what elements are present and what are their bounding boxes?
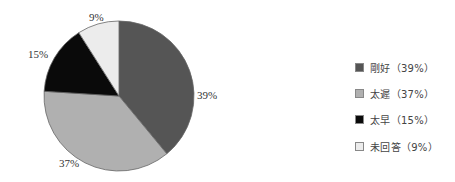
data-label-no-answer: 9% <box>89 11 104 23</box>
legend-label: 太遲（37%） <box>370 86 434 101</box>
legend-item-just-right: 剛好（39%） <box>355 62 438 73</box>
legend-swatch <box>355 115 364 124</box>
data-label-just-right: 39% <box>197 89 217 101</box>
data-label-too-late: 37% <box>59 157 79 169</box>
legend-item-too-early: 太早（15%） <box>355 114 438 125</box>
legend-label: 太早（15%） <box>370 112 434 127</box>
legend-item-no-answer: 未回答（9%） <box>355 141 438 152</box>
legend-swatch <box>355 89 364 98</box>
legend: 剛好（39%） 太遲（37%） 太早（15%） 未回答（9%） <box>355 62 438 167</box>
legend-item-too-late: 太遲（37%） <box>355 88 438 99</box>
legend-label: 剛好（39%） <box>370 60 434 75</box>
legend-label: 未回答（9%） <box>370 139 438 154</box>
legend-swatch <box>355 63 364 72</box>
data-label-too-early: 15% <box>28 48 48 60</box>
legend-swatch <box>355 142 364 151</box>
